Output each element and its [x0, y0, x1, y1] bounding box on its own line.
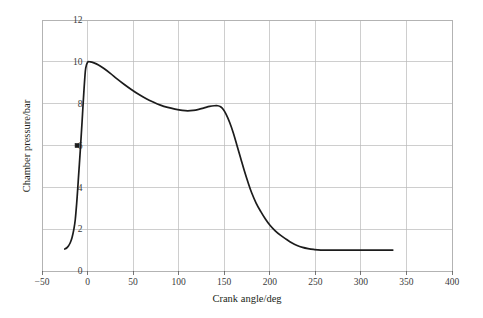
y-axis-title: Chamber pressure/bar — [21, 99, 32, 192]
x-tick-label: 100 — [172, 277, 187, 287]
x-tick-label: 350 — [399, 277, 414, 287]
data-marker-layer — [75, 144, 79, 148]
x-tick-label: 50 — [128, 277, 138, 287]
x-tick-label: 150 — [217, 277, 232, 287]
y-tick-label: 12 — [73, 15, 83, 25]
y-tick-label: 0 — [78, 266, 83, 276]
x-tick-label: 200 — [263, 277, 278, 287]
x-tick-label: 300 — [354, 277, 369, 287]
x-tick-label: −50 — [35, 277, 50, 287]
y-tick-label: 10 — [73, 57, 83, 67]
y-tick-label: 2 — [78, 224, 83, 234]
series-data-marker — [75, 144, 79, 148]
x-tick-label: 400 — [445, 277, 460, 287]
chart-figure: −50050100150200250300350400 024681012 Cr… — [0, 0, 483, 318]
x-tick-label: 250 — [308, 277, 323, 287]
x-tick-label: 0 — [85, 277, 90, 287]
chart-plot-svg: −50050100150200250300350400 024681012 Cr… — [0, 0, 483, 318]
x-axis-title: Crank angle/deg — [212, 293, 282, 304]
